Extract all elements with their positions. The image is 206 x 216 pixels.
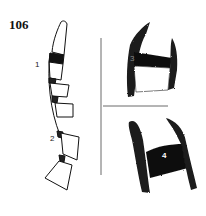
segment-label-2: 2	[50, 134, 54, 143]
panel-label-3: 3	[130, 54, 134, 63]
segmented-appendage	[45, 21, 79, 190]
segment-label-1: 1	[35, 60, 39, 69]
panel-3-structure	[127, 22, 177, 97]
figure-drawing	[0, 0, 206, 216]
panel-label-4: 4	[162, 151, 166, 160]
